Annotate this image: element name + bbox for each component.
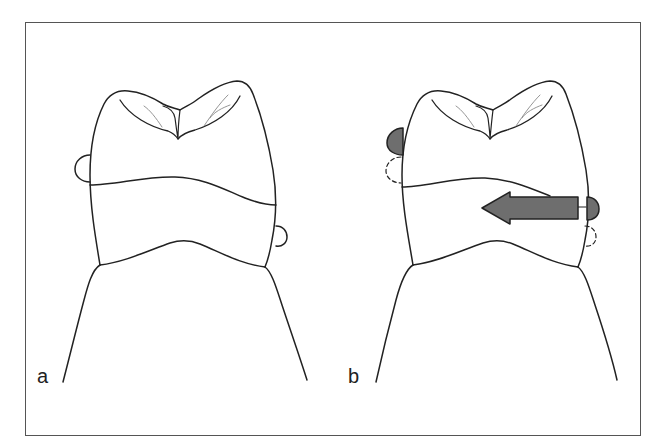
- panel-a: [63, 81, 307, 382]
- dental-diagram-figure: a b: [0, 0, 663, 446]
- panel-a-crown-outline: [90, 81, 276, 267]
- panel-a-contact-right: [276, 226, 287, 246]
- panel-a-cervical-line: [100, 241, 265, 267]
- panel-a-ridge-right: [204, 95, 230, 126]
- panel-b-cervical-line: [413, 241, 578, 267]
- panel-b-movement-arrow-icon: [482, 192, 578, 224]
- diagram-canvas: [0, 0, 663, 446]
- panel-label-a: a: [37, 366, 48, 386]
- panel-a-contact-left: [75, 155, 90, 182]
- panel-b-ridge-right: [516, 95, 542, 126]
- panel-a-root-right: [265, 267, 307, 380]
- panel-b-root-left: [376, 265, 413, 382]
- panel-b-contact-left-original-dashed: [386, 157, 401, 183]
- panel-b-contact-right-shaded: [587, 197, 599, 220]
- panel-a-root-left: [63, 265, 100, 382]
- panel-a-middle-line: [90, 177, 276, 205]
- panel-label-b: b: [348, 366, 359, 386]
- panel-b: [376, 81, 617, 382]
- panel-b-root-right: [578, 267, 617, 380]
- panel-b-middle-line: [402, 178, 550, 196]
- panel-a-occlusal-fossa: [120, 96, 240, 139]
- panel-b-crown-outline: [402, 81, 589, 267]
- panel-b-contact-left-shaded: [387, 128, 403, 155]
- panel-a-central-groove: [163, 106, 180, 139]
